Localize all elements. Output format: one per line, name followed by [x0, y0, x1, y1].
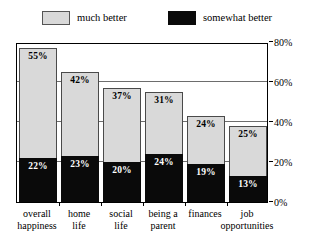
y-tick-80: [269, 41, 273, 42]
bar-value-label: 42%: [62, 76, 98, 86]
y-axis-label-40pct: 40%: [274, 118, 292, 128]
x-tick: [227, 202, 228, 206]
bar-value-label: 25%: [230, 130, 266, 140]
bar-value-label: 20%: [104, 166, 140, 176]
bar-value-label: 31%: [146, 96, 182, 106]
legend-swatch-much-better: [42, 11, 70, 25]
legend-swatch-somewhat-better: [168, 11, 196, 25]
y-axis-label-60pct: 60%: [274, 78, 292, 88]
y-tick-40: [269, 121, 273, 122]
bar-value-label: 19%: [188, 168, 224, 178]
bar-value-label: 13%: [230, 180, 266, 190]
bar-group[interactable]: 24%19%: [187, 116, 225, 202]
bar-segment-much-better[interactable]: 55%: [19, 48, 57, 158]
bar-value-label: 23%: [62, 160, 98, 170]
bars-layer: 55%22%42%23%37%20%31%24%24%19%25%13%: [17, 44, 267, 202]
bar-segment-somewhat-better[interactable]: 23%: [61, 156, 99, 202]
bar-segment-much-better[interactable]: 42%: [61, 72, 99, 156]
legend-item-much-better: much better: [42, 7, 127, 29]
bar-segment-somewhat-better[interactable]: 13%: [229, 176, 267, 202]
bar-segment-somewhat-better[interactable]: 24%: [145, 154, 183, 202]
x-axis-label-job-opportunities: jobopportunities: [219, 208, 275, 232]
x-tick: [59, 202, 60, 206]
x-axis-labels: overallhappinesshomelifesociallifebeing …: [16, 208, 268, 248]
bar-value-label: 24%: [188, 120, 224, 130]
y-axis-labels: 0%20%40%60%80%: [274, 36, 314, 214]
x-tick: [143, 202, 144, 206]
bar-value-label: 22%: [20, 162, 56, 172]
bar-segment-somewhat-better[interactable]: 19%: [187, 164, 225, 202]
bar-segment-somewhat-better[interactable]: 20%: [103, 162, 141, 202]
stacked-bar-chart: much better somewhat better 55%22%42%23%…: [0, 0, 315, 249]
y-axis-label-20pct: 20%: [274, 158, 292, 168]
y-axis-label-0pct: 0%: [274, 198, 287, 208]
bar-segment-much-better[interactable]: 37%: [103, 88, 141, 162]
x-axis-label-line: opportunities: [219, 220, 275, 232]
bar-value-label: 37%: [104, 92, 140, 102]
bar-group[interactable]: 42%23%: [61, 72, 99, 202]
plot-area: 55%22%42%23%37%20%31%24%24%19%25%13%: [16, 43, 268, 203]
legend-label-somewhat-better: somewhat better: [203, 13, 272, 24]
legend-item-somewhat-better: somewhat better: [168, 7, 272, 29]
bar-segment-much-better[interactable]: 25%: [229, 126, 267, 176]
x-axis-label-line: parent: [135, 220, 191, 232]
bar-group[interactable]: 31%24%: [145, 92, 183, 202]
chart-legend: much better somewhat better: [0, 7, 315, 29]
bar-segment-much-better[interactable]: 31%: [145, 92, 183, 154]
legend-label-much-better: much better: [77, 13, 127, 24]
bar-value-label: 24%: [146, 158, 182, 168]
bar-segment-somewhat-better[interactable]: 22%: [19, 158, 57, 202]
y-tick-60: [269, 81, 273, 82]
x-tick: [101, 202, 102, 206]
bar-segment-much-better[interactable]: 24%: [187, 116, 225, 164]
bar-group[interactable]: 55%22%: [19, 48, 57, 202]
y-axis-label-80pct: 80%: [274, 38, 292, 48]
bar-group[interactable]: 37%20%: [103, 88, 141, 202]
bar-group[interactable]: 25%13%: [229, 126, 267, 202]
x-axis-label-line: job: [219, 208, 275, 220]
y-tick-20: [269, 161, 273, 162]
x-tick: [185, 202, 186, 206]
bar-value-label: 55%: [20, 52, 56, 62]
y-tick-0: [269, 201, 273, 202]
